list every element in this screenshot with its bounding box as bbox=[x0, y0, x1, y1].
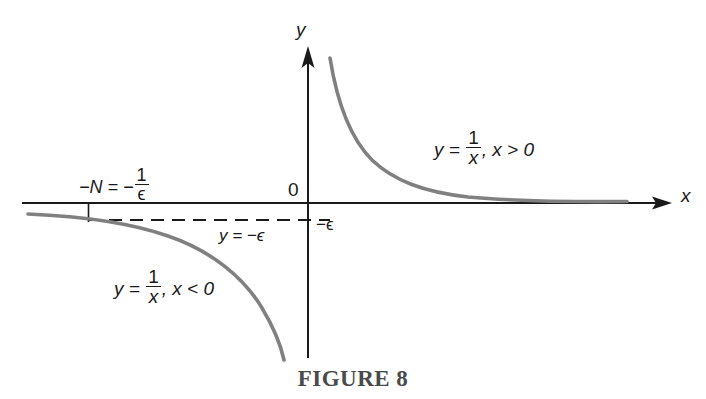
branch-positive-denominator: x bbox=[466, 147, 481, 169]
branch-positive-equation-label: y = 1x, x > 0 bbox=[434, 128, 534, 169]
dashed-line-equation-label: y = −ϵ bbox=[219, 227, 264, 244]
neg-N-numerator: 1 bbox=[135, 166, 149, 184]
neg-N-denominator: ϵ bbox=[135, 184, 149, 204]
figure-caption: FIGURE 8 bbox=[0, 366, 706, 392]
branch-positive-suffix: , x > 0 bbox=[482, 139, 534, 160]
figure-8-container: y x 0 −ϵ −N = −1ϵ y = −ϵ y = 1x, x > 0 y… bbox=[0, 0, 706, 399]
branch-negative-numerator: 1 bbox=[146, 267, 161, 286]
neg-N-label: −N = −1ϵ bbox=[79, 166, 150, 205]
branch-negative-denominator: x bbox=[146, 286, 161, 308]
neg-N-prefix: −N = − bbox=[79, 177, 134, 197]
branch-negative-fraction: 1x bbox=[146, 267, 161, 308]
y-axis-label: y bbox=[296, 20, 306, 39]
branch-positive-prefix: y = bbox=[434, 139, 465, 160]
neg-N-fraction: 1ϵ bbox=[135, 166, 149, 205]
neg-epsilon-tick-label: −ϵ bbox=[316, 216, 333, 233]
branch-negative-prefix: y = bbox=[114, 278, 145, 299]
branch-positive-numerator: 1 bbox=[466, 128, 481, 147]
branch-negative-suffix: , x < 0 bbox=[162, 278, 214, 299]
branch-positive-fraction: 1x bbox=[466, 128, 481, 169]
branch-negative-equation-label: y = 1x, x < 0 bbox=[114, 267, 214, 308]
x-axis-label: x bbox=[681, 186, 691, 205]
origin-label: 0 bbox=[288, 180, 299, 199]
